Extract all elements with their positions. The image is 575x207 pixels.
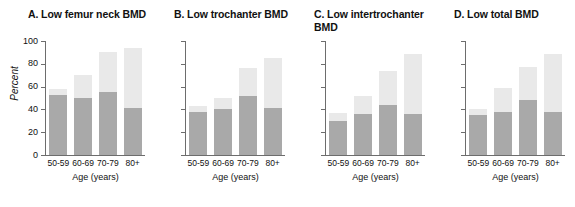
panel-a-y-tick-20 [41, 132, 45, 133]
bar-segment-dark [469, 115, 487, 155]
bar-group [354, 41, 372, 155]
panel-a-y-tick-40 [41, 109, 45, 110]
bar-segment-dark [264, 108, 282, 155]
x-tick-label: 80+ [116, 158, 150, 168]
panel-a-x-axis-line [45, 155, 145, 156]
bar-segment-dark [404, 114, 422, 155]
panel-c-y-tick-80 [321, 64, 325, 65]
panel-a-bars [46, 41, 145, 155]
panel-c-y-tick-0 [321, 155, 325, 156]
bmd-prevalence-figure: A. Low femur neck BMD 020406080100 Perce… [0, 0, 575, 207]
bar-segment-dark [99, 92, 117, 155]
bar-group [239, 41, 257, 155]
bar-group [124, 41, 142, 155]
panel-a-x-tick-labels: 50-5960-6970-7980+ [46, 158, 145, 170]
panel-b-y-tick-20 [181, 132, 185, 133]
panel-d-y-tick-100 [461, 41, 465, 42]
panel-b-y-tick-40 [181, 109, 185, 110]
panel-a-y-tick-label-20: 20 [14, 128, 38, 137]
panel-d-y-tick-80 [461, 64, 465, 65]
panel-c-y-tick-100 [321, 41, 325, 42]
panel-a-y-axis-title: Percent [9, 54, 20, 114]
panel-c-bars [326, 41, 425, 155]
x-tick-label: 80+ [536, 158, 570, 168]
panel-c-x-axis-title: Age (years) [326, 172, 425, 182]
panel-c-x-tick-labels: 50-5960-6970-7980+ [326, 158, 425, 170]
panel-d-bars [466, 41, 565, 155]
bar-group [49, 41, 67, 155]
bar-group [329, 41, 347, 155]
bar-group [74, 41, 92, 155]
panel-b-y-tick-60 [181, 87, 185, 88]
panel-d-y-tick-40 [461, 109, 465, 110]
bar-segment-dark [189, 112, 207, 155]
x-tick-label: 80+ [396, 158, 430, 168]
panel-a-y-tick-0 [41, 155, 45, 156]
bar-segment-dark [544, 112, 562, 155]
bar-segment-dark [519, 100, 537, 155]
panel-b-y-tick-0 [181, 155, 185, 156]
x-tick-label: 80+ [256, 158, 290, 168]
bar-segment-dark [214, 109, 232, 155]
bar-group [264, 41, 282, 155]
bar-group [214, 41, 232, 155]
bar-segment-dark [354, 114, 372, 155]
panel-b-x-axis-title: Age (years) [186, 172, 285, 182]
panel-a-y-tick-100 [41, 41, 45, 42]
panel-c-y-tick-20 [321, 132, 325, 133]
bar-segment-dark [494, 112, 512, 155]
panel-d-plot: 50-5960-6970-7980+ Age (years) [432, 0, 575, 207]
bar-segment-dark [49, 95, 67, 155]
panel-b-x-axis-line [185, 155, 285, 156]
bar-group [99, 41, 117, 155]
panel-a: A. Low femur neck BMD 020406080100 Perce… [0, 0, 152, 207]
panel-a-plot: 020406080100 Percent 50-5960-6970-7980+ … [0, 0, 152, 207]
bar-segment-dark [74, 98, 92, 155]
bar-group [404, 41, 422, 155]
panel-d-x-axis-title: Age (years) [466, 172, 565, 182]
panel-a-y-tick-80 [41, 64, 45, 65]
panel-a-y-tick-label-0: 0 [14, 151, 38, 160]
panel-b: B. Low trochanter BMD 50-5960-6970-7980+… [152, 0, 292, 207]
panel-d-y-tick-0 [461, 155, 465, 156]
panel-c: C. Low intertrochanter BMD 50-5960-6970-… [292, 0, 432, 207]
panel-c-y-tick-60 [321, 87, 325, 88]
panel-d: D. Low total BMD 50-5960-6970-7980+ Age … [432, 0, 575, 207]
panel-c-plot: 50-5960-6970-7980+ Age (years) [292, 0, 432, 207]
bar-group [494, 41, 512, 155]
panel-d-y-tick-20 [461, 132, 465, 133]
panel-d-x-axis-line [465, 155, 565, 156]
bar-group [189, 41, 207, 155]
panel-b-y-tick-100 [181, 41, 185, 42]
panel-a-y-tick-60 [41, 87, 45, 88]
panel-c-x-axis-line [325, 155, 425, 156]
panel-b-plot: 50-5960-6970-7980+ Age (years) [152, 0, 292, 207]
bar-group [379, 41, 397, 155]
bar-segment-dark [239, 96, 257, 155]
bar-segment-dark [329, 121, 347, 155]
bar-segment-dark [124, 108, 142, 155]
bar-group [544, 41, 562, 155]
bar-group [469, 41, 487, 155]
panel-d-y-tick-60 [461, 87, 465, 88]
panel-b-bars [186, 41, 285, 155]
panel-b-x-tick-labels: 50-5960-6970-7980+ [186, 158, 285, 170]
bar-group [519, 41, 537, 155]
panel-a-y-tick-label-100: 100 [14, 37, 38, 46]
panel-b-y-tick-80 [181, 64, 185, 65]
panel-c-y-tick-40 [321, 109, 325, 110]
panel-a-x-axis-title: Age (years) [46, 172, 145, 182]
bar-segment-dark [379, 105, 397, 155]
panel-d-x-tick-labels: 50-5960-6970-7980+ [466, 158, 565, 170]
